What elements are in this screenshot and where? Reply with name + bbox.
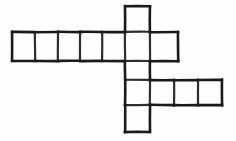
cell-fill-col-mid — [125, 61, 150, 80]
cell-fill-r1c4 — [80, 32, 102, 61]
cell-fill-r1c6 — [125, 32, 150, 61]
net-diagram-figure: A figure made of connected unit squares:… — [0, 0, 236, 141]
net-diagram-svg — [0, 0, 236, 141]
cell-fill-r2c1 — [125, 80, 150, 105]
cell-fill-col-bot — [125, 105, 150, 132]
cell-fill-r2c3 — [174, 80, 198, 105]
cell-fill-r2c4 — [198, 80, 222, 105]
cell-fill-r1c2 — [35, 32, 58, 61]
cell-fill-r1c7 — [150, 32, 178, 61]
cell-fill-r1c5 — [102, 32, 125, 61]
diagram-background — [0, 0, 236, 141]
cell-fill-col-top — [125, 6, 150, 32]
cell-fill-r1c3 — [58, 32, 80, 61]
cell-fill-r1c1 — [12, 32, 35, 61]
cell-fill-r2c2 — [150, 80, 174, 105]
